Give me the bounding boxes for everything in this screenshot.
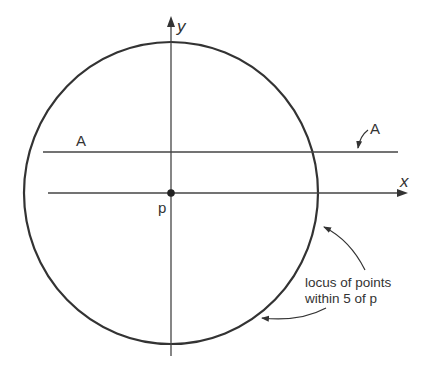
line-a-label-left: A (76, 132, 86, 149)
y-axis (167, 16, 175, 356)
locus-label-line1: locus of points (305, 275, 392, 290)
line-a-label-right: A (370, 120, 380, 137)
locus-label-line2: within 5 of p (304, 291, 377, 306)
line-a-pointer-arrow-icon (358, 130, 368, 148)
diagram-canvas: y x A A p locus of points within 5 of p (0, 0, 427, 368)
point-p-label: p (158, 199, 166, 216)
point-p (167, 189, 175, 197)
y-axis-label: y (176, 17, 187, 36)
x-axis-label: x (399, 172, 409, 191)
locus-pointer-lower-arrow-icon (262, 308, 326, 319)
locus-pointer-upper-arrow-icon (324, 227, 365, 270)
y-axis-arrow-icon (167, 16, 175, 27)
x-axis (48, 189, 408, 197)
